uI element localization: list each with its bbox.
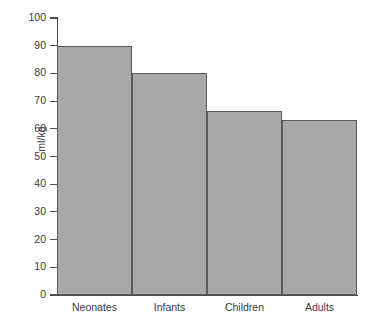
category-label-neonates: Neonates [57,301,132,313]
y-axis-tick-mark [50,211,57,212]
bar-adults [282,120,357,295]
y-axis-tick-label: 70 [6,95,46,106]
y-axis-tick-mark [50,267,57,268]
bar-infants [132,73,207,295]
y-axis-tick-label: 0 [6,289,46,300]
y-axis-tick-label: 80 [6,67,46,78]
y-axis-tick-mark [50,101,57,102]
y-axis-tick-mark [50,73,57,74]
category-label-adults: Adults [282,301,357,313]
bar-chart-figure: ml/kg 1009080706050403020100 NeonatesInf… [0,0,379,331]
y-axis-tick-label: 60 [6,123,46,134]
y-axis-tick-label: 50 [6,151,46,162]
y-axis-tick-mark [50,17,57,18]
y-axis-tick-mark [50,128,57,129]
y-axis-tick-mark [50,294,57,295]
bar-children [207,111,282,295]
bar-neonates [57,46,132,295]
y-axis-tick-mark [50,239,57,240]
y-axis-tick-label: 40 [6,178,46,189]
category-label-children: Children [207,301,282,313]
y-axis-tick-mark [50,45,57,46]
y-axis-tick-mark [50,156,57,157]
x-axis-line [56,295,358,296]
y-axis-tick-label: 100 [6,12,46,23]
y-axis-tick-label: 20 [6,234,46,245]
category-label-infants: Infants [132,301,207,313]
y-axis-tick-mark [50,184,57,185]
y-axis-tick-label: 30 [6,206,46,217]
y-axis-tick-label: 10 [6,261,46,272]
y-axis-tick-label: 90 [6,40,46,51]
